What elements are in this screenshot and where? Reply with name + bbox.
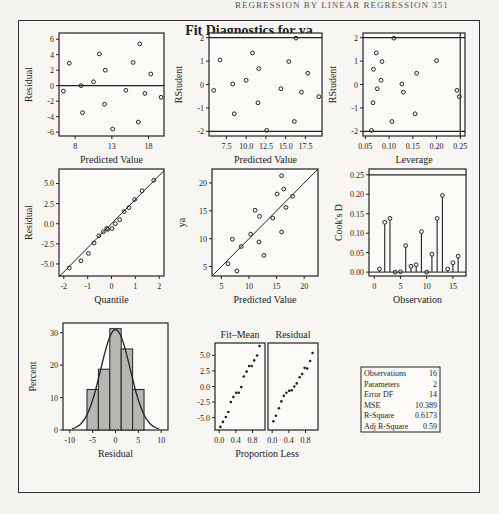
stat-label: Observations: [364, 369, 406, 378]
rstudent-vs-pred-plot: -2-1012RStudent7.510.012.515.017.5Predic…: [173, 33, 322, 165]
x-axis-label: Leverage: [395, 154, 433, 165]
y-tick-label: 0: [200, 81, 204, 90]
y-tick-label: 20: [50, 361, 58, 370]
y-tick-label: 0.20: [350, 190, 364, 199]
rf-spread-0-plot: -5.0-2.50.02.55.00.00.40.8Fit–Mean: [197, 329, 265, 445]
data-point: [456, 254, 460, 258]
x-axis-label: Predicted Value: [80, 154, 143, 165]
panel-label: Fit–Mean: [221, 329, 260, 340]
x-tick-label: 10: [157, 436, 165, 445]
data-point: [278, 407, 281, 410]
data-point: [227, 411, 230, 414]
stat-label: MSE: [364, 401, 381, 410]
x-tick-label: 17.5: [298, 142, 312, 151]
y-tick-label: 20: [199, 179, 207, 188]
data-point: [242, 375, 245, 378]
stat-value: 10.389: [415, 401, 437, 410]
data-point: [232, 396, 235, 399]
y-tick-label: -1: [351, 104, 358, 113]
data-point: [451, 261, 455, 265]
stat-label: Adj R-Square: [364, 422, 409, 431]
y-tick-label: 0.10: [350, 229, 364, 238]
x-tick-label: 0: [110, 282, 114, 291]
x-tick-label: 0.0: [214, 436, 224, 445]
stat-value: 0.6173: [415, 411, 437, 420]
y-tick-label: 0.15: [350, 210, 364, 219]
y-tick-label: -5.0: [41, 260, 54, 269]
x-tick-label: 18: [145, 142, 153, 151]
data-point: [275, 414, 278, 417]
y-tick-label: 5.0: [44, 179, 54, 188]
x-tick-label: 0.15: [406, 142, 420, 151]
x-axis-label: Predicted Value: [234, 294, 297, 305]
plot-area: [209, 33, 322, 136]
x-tick-label: 0.4: [284, 436, 294, 445]
y-tick-label: 10: [50, 394, 58, 403]
x-tick-label: -2: [60, 282, 67, 291]
y-tick-label: 2: [50, 66, 54, 75]
x-tick-label: 0.20: [430, 142, 444, 151]
data-point: [250, 365, 253, 368]
data-point: [240, 386, 243, 389]
panel-label: Residual: [276, 329, 311, 340]
y-tick-label: 5: [203, 263, 207, 272]
data-point: [288, 390, 291, 393]
data-point: [301, 373, 304, 376]
y-tick-label: -2: [351, 127, 358, 136]
x-tick-label: 13: [108, 142, 116, 151]
y-tick-label: -2: [47, 97, 54, 106]
x-tick-label: 5: [398, 282, 402, 291]
data-point: [435, 217, 439, 221]
x-axis-label: Proportion Less: [235, 448, 299, 459]
data-point: [295, 382, 298, 385]
data-point: [245, 370, 248, 373]
y-tick-label: 4: [50, 51, 54, 60]
x-axis-label: Observation: [393, 294, 442, 305]
y-tick-label: 2.5: [44, 200, 54, 209]
data-point: [219, 426, 222, 429]
x-axis-label: Residual: [98, 448, 133, 459]
x-tick-label: 5: [136, 436, 140, 445]
histogram-bar: [98, 369, 109, 430]
x-tick-label: 15: [449, 282, 457, 291]
rstudent-vs-leverage-plot: -2-1012RStudent0.050.100.150.200.25Lever…: [327, 33, 467, 165]
data-point: [306, 367, 309, 370]
plot-area: [363, 33, 465, 136]
cooks-d-plot: 0.000.050.100.150.200.25Cook's D051015Ob…: [333, 169, 466, 305]
y-tick-label: 0: [354, 81, 358, 90]
x-tick-label: 0: [114, 436, 118, 445]
data-point: [225, 416, 228, 419]
y-tick-label: 2: [354, 34, 358, 43]
data-point: [446, 267, 450, 271]
y-tick-label: 30: [50, 329, 58, 338]
x-tick-label: 10: [245, 282, 253, 291]
data-point: [298, 376, 301, 379]
x-tick-label: 0.4: [231, 436, 241, 445]
x-tick-label: 0.10: [382, 142, 396, 151]
x-tick-label: 12.5: [259, 142, 273, 151]
y-axis-label: Percent: [27, 361, 38, 391]
x-tick-label: 0.8: [248, 436, 258, 445]
y-tick-label: 0.0: [44, 220, 54, 229]
x-tick-label: 0.25: [453, 142, 467, 151]
x-axis-label: Quantile: [94, 294, 129, 305]
page-running-header: REGRESSION BY LINEAR REGRESSION 351: [235, 0, 499, 10]
data-point: [420, 230, 424, 234]
x-tick-label: 0.8: [301, 436, 311, 445]
data-point: [311, 352, 314, 355]
x-tick-label: 20: [300, 282, 308, 291]
y-axis-label: Cook's D: [333, 204, 344, 241]
data-point: [409, 264, 413, 268]
x-tick-label: 8: [73, 142, 77, 151]
data-point: [383, 220, 387, 224]
y-tick-label: 0.05: [350, 249, 364, 258]
y-axis-label: RStudent: [327, 66, 338, 103]
data-point: [378, 267, 382, 271]
x-tick-label: 15.0: [279, 142, 293, 151]
data-point: [283, 395, 286, 398]
data-point: [430, 252, 434, 256]
histogram-bar: [121, 349, 132, 430]
x-tick-label: -1: [84, 282, 91, 291]
stat-value: 0.59: [423, 422, 437, 431]
data-point: [235, 391, 238, 394]
